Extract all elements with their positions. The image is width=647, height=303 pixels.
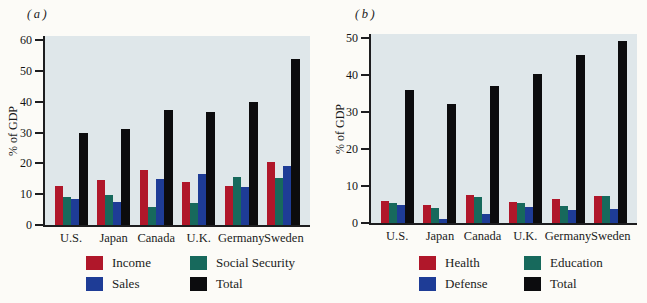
y-tick bbox=[35, 70, 43, 72]
bar-health bbox=[381, 201, 389, 223]
bar-health bbox=[594, 196, 602, 223]
bar-group: U.K. bbox=[182, 112, 215, 225]
bar-defense bbox=[482, 214, 490, 223]
bar-group: U.S. bbox=[55, 133, 88, 226]
bar-defense bbox=[397, 205, 405, 224]
figure: (a) % of GDP 0102030405060U.S.JapanCanad… bbox=[0, 0, 647, 303]
bar-education bbox=[517, 203, 525, 223]
y-tick-label: 50 bbox=[332, 31, 358, 45]
legend-label: Education bbox=[550, 255, 603, 271]
bar-group: U.K. bbox=[509, 74, 542, 223]
y-tick bbox=[361, 111, 369, 113]
legend-item: Health bbox=[419, 255, 524, 271]
bar-education bbox=[431, 208, 439, 223]
y-tick bbox=[35, 132, 43, 134]
bar-sales bbox=[113, 202, 121, 225]
y-tick-label: 30 bbox=[332, 105, 358, 119]
legend-swatch bbox=[524, 277, 541, 291]
bar-education bbox=[389, 203, 397, 223]
y-tick bbox=[35, 224, 43, 226]
y-tick bbox=[361, 74, 369, 76]
x-category-label: Japan bbox=[99, 231, 127, 246]
x-category-label: U.K. bbox=[187, 231, 211, 246]
y-tick bbox=[361, 37, 369, 39]
y-tick bbox=[35, 193, 43, 195]
y-tick bbox=[361, 148, 369, 150]
bar-social-security bbox=[63, 197, 71, 225]
legend-column: IncomeSales bbox=[86, 255, 190, 292]
bar-total bbox=[249, 102, 258, 225]
bar-total bbox=[164, 110, 173, 225]
bar-group: Canada bbox=[466, 86, 499, 223]
bar-health bbox=[509, 202, 517, 223]
legend-item: Income bbox=[86, 255, 190, 271]
y-tick-label: 50 bbox=[6, 64, 32, 78]
y-tick-label: 40 bbox=[6, 95, 32, 109]
bar-education bbox=[602, 196, 610, 223]
bar-group: Canada bbox=[140, 110, 173, 225]
legend-swatch bbox=[86, 277, 103, 291]
legend-label: Health bbox=[445, 255, 480, 271]
bar-defense bbox=[568, 210, 576, 223]
bar-total bbox=[533, 74, 542, 223]
legend-swatch bbox=[190, 256, 207, 270]
bar-total bbox=[490, 86, 499, 223]
y-tick bbox=[35, 162, 43, 164]
bar-sales bbox=[198, 174, 206, 225]
bar-group: Japan bbox=[97, 129, 130, 225]
legend-item: Education bbox=[524, 255, 603, 271]
panel-b-label: (b) bbox=[355, 7, 377, 22]
y-tick bbox=[361, 185, 369, 187]
legend-label: Defense bbox=[445, 276, 488, 292]
y-tick-label: 0 bbox=[6, 218, 32, 232]
bar-income bbox=[97, 180, 105, 225]
y-tick bbox=[35, 101, 43, 103]
legend-swatch bbox=[86, 256, 103, 270]
bar-health bbox=[423, 205, 431, 223]
legend-swatch bbox=[419, 277, 436, 291]
bar-group: Sweden bbox=[594, 41, 627, 223]
legend-swatch bbox=[419, 256, 436, 270]
y-axis-title: % of GDP bbox=[333, 34, 348, 225]
bar-social-security bbox=[105, 195, 113, 225]
bar-social-security bbox=[275, 178, 283, 225]
legend-swatch bbox=[524, 256, 541, 270]
y-tick-label: 10 bbox=[332, 179, 358, 193]
legend-column: HealthDefense bbox=[419, 255, 524, 292]
bar-total bbox=[447, 104, 456, 224]
panel-a: (a) % of GDP 0102030405060U.S.JapanCanad… bbox=[0, 0, 323, 303]
bar-defense bbox=[525, 207, 533, 223]
bar-health bbox=[552, 199, 560, 223]
legend-item: Defense bbox=[419, 276, 524, 292]
legend-item: Total bbox=[190, 276, 295, 292]
legend-label: Total bbox=[216, 276, 243, 292]
bar-sales bbox=[156, 179, 164, 225]
bar-sales bbox=[241, 187, 249, 225]
bar-groups: U.S.JapanCanadaU.K.GermanySweden bbox=[371, 34, 637, 223]
plot-area: 01020304050U.S.JapanCanadaU.K.GermanySwe… bbox=[369, 34, 637, 225]
legend-label: Total bbox=[550, 276, 577, 292]
x-category-label: Japan bbox=[426, 229, 454, 244]
bar-group: Germany bbox=[225, 102, 258, 225]
bar-social-security bbox=[233, 177, 241, 225]
bar-total bbox=[121, 129, 130, 225]
y-tick-label: 20 bbox=[6, 156, 32, 170]
bar-total bbox=[576, 55, 585, 223]
legend: HealthDefenseEducationTotal bbox=[419, 255, 603, 292]
bar-group: U.S. bbox=[381, 90, 414, 223]
legend-item: Total bbox=[524, 276, 603, 292]
plot-area: 0102030405060U.S.JapanCanadaU.K.GermanyS… bbox=[43, 36, 310, 227]
legend-label: Income bbox=[112, 255, 151, 271]
bar-income bbox=[182, 182, 190, 225]
bar-total bbox=[206, 112, 215, 225]
bar-total bbox=[79, 133, 88, 226]
bar-education bbox=[474, 197, 482, 223]
legend-swatch bbox=[190, 277, 207, 291]
panel-b: (b) % of GDP 01020304050U.S.JapanCanadaU… bbox=[324, 0, 647, 303]
bar-total bbox=[405, 90, 414, 223]
legend-column: EducationTotal bbox=[524, 255, 603, 292]
x-category-label: Germany bbox=[218, 231, 265, 246]
y-tick-label: 20 bbox=[332, 142, 358, 156]
x-category-label: Canada bbox=[137, 231, 174, 246]
y-tick-label: 10 bbox=[6, 187, 32, 201]
